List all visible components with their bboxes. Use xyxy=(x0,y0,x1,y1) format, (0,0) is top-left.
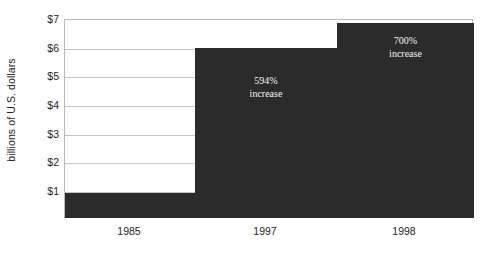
bar-1985 xyxy=(65,193,195,218)
y-tick-4: $4 xyxy=(22,99,64,111)
plot-area: 594% increase 700% increase xyxy=(64,19,473,218)
y-axis-title-text: billions of U.S. dollars xyxy=(5,58,17,161)
x-axis-tick-labels: 1985 1997 1998 xyxy=(64,225,473,245)
y-tick-7: $7 xyxy=(22,13,64,25)
y-tick-5: $5 xyxy=(22,70,64,82)
bar-1997: 594% increase xyxy=(195,48,337,218)
bar-1997-word: increase xyxy=(195,87,337,100)
bar-1998-percent: 700% xyxy=(337,34,474,47)
x-tick-1985: 1985 xyxy=(117,225,140,237)
bar-1997-percent: 594% xyxy=(195,74,337,87)
y-tick-3: $3 xyxy=(22,128,64,140)
y-tick-6: $6 xyxy=(22,42,64,54)
bar-1998: 700% increase xyxy=(337,23,474,218)
chart-figure: billions of U.S. dollars $7 $6 $5 $4 $3 … xyxy=(0,0,494,253)
bar-1997-label: 594% increase xyxy=(195,74,337,100)
y-axis-tick-labels: $7 $6 $5 $4 $3 $2 $1 xyxy=(22,0,64,253)
y-tick-1: $1 xyxy=(22,185,64,197)
x-tick-1997: 1997 xyxy=(253,225,276,237)
bar-1998-label: 700% increase xyxy=(337,34,474,60)
y-tick-2: $2 xyxy=(22,156,64,168)
bar-1998-word: increase xyxy=(337,47,474,60)
y-axis-title: billions of U.S. dollars xyxy=(0,0,22,220)
x-tick-1998: 1998 xyxy=(392,225,415,237)
